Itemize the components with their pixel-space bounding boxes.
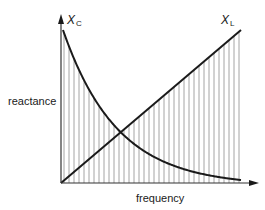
xl-symbol: X [221, 13, 229, 27]
xc-label: XC [67, 14, 82, 28]
y-axis-arrow-icon [58, 14, 64, 24]
xl-subscript: L [230, 19, 234, 28]
x-axis-label: frequency [136, 193, 184, 204]
y-axis-label: reactance [8, 96, 56, 107]
xl-label: XL [221, 14, 234, 28]
x-axis-arrow-icon [249, 180, 259, 186]
xc-subscript: C [76, 19, 82, 28]
xc-symbol: X [67, 13, 75, 27]
